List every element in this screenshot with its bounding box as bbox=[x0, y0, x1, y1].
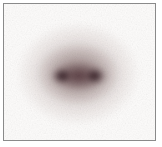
screenshot-canvas bbox=[0, 0, 162, 147]
image-frame bbox=[3, 3, 156, 141]
double-spot-blob bbox=[4, 4, 155, 140]
